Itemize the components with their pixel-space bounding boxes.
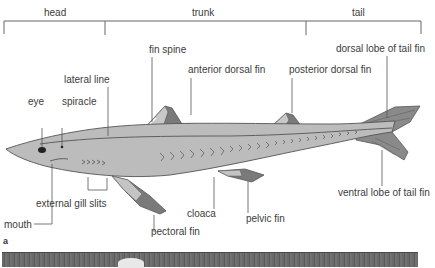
label-spiracle: spiracle bbox=[62, 96, 96, 107]
label-mouth: mouth bbox=[4, 219, 32, 230]
pelvic-fin-shape bbox=[218, 169, 264, 182]
photo-panel-b bbox=[2, 252, 418, 267]
label-posterior-dorsal-fin: posterior dorsal fin bbox=[289, 64, 371, 75]
label-eye: eye bbox=[28, 96, 44, 107]
label-fin-spine: fin spine bbox=[149, 44, 186, 55]
pectoral-fin-shape bbox=[112, 176, 166, 214]
spiracle-shape bbox=[61, 146, 64, 149]
eye-shape bbox=[38, 147, 46, 153]
label-anterior-dorsal-fin: anterior dorsal fin bbox=[188, 64, 265, 75]
label-pectoral-fin: pectoral fin bbox=[151, 226, 200, 237]
label-external-gill-slits: external gill slits bbox=[36, 198, 107, 209]
section-brackets bbox=[4, 21, 421, 35]
label-cloaca: cloaca bbox=[187, 208, 216, 219]
label-dorsal-lobe-tail-fin: dorsal lobe of tail fin bbox=[336, 43, 425, 54]
label-lateral-line: lateral line bbox=[64, 74, 110, 85]
label-ventral-lobe-tail-fin: ventral lobe of tail fin bbox=[338, 187, 430, 198]
label-pelvic-fin: pelvic fin bbox=[246, 213, 285, 224]
panel-letter: a bbox=[3, 236, 8, 246]
photo-highlight bbox=[118, 258, 144, 268]
shark-body-shape bbox=[6, 121, 395, 177]
